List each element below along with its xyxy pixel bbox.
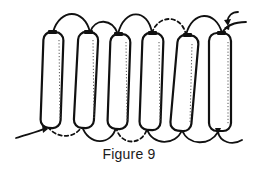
top-arc-1-2 — [53, 14, 90, 32]
bead-1 — [40, 30, 63, 128]
bottom-exit-thread — [218, 132, 242, 143]
arrow-icon-needle — [224, 12, 238, 30]
bottom-entry-thread — [16, 128, 46, 138]
bead-4 — [139, 31, 163, 130]
bead-2 — [74, 30, 99, 128]
beads — [40, 30, 231, 132]
bottom-arc-5-6 — [182, 130, 218, 142]
bead-3 — [107, 32, 130, 129]
bead-5 — [170, 33, 199, 132]
stitch-diagram — [0, 0, 258, 145]
top-arc-3-4 — [118, 14, 152, 34]
figure-caption: Figure 9 — [0, 146, 258, 162]
bead-6 — [209, 31, 231, 131]
